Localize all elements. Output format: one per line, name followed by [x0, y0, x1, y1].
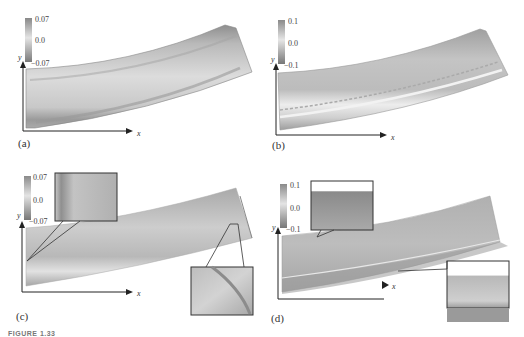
colorbar-min-c: −0.07: [29, 217, 48, 226]
colorbar-max-d: 0.1: [290, 181, 300, 190]
y-arrow-icon: [275, 227, 281, 234]
colorbar-max-c: 0.07: [33, 173, 47, 182]
colorbar-mid-b: 0.0: [288, 39, 298, 48]
colorbar-c: [24, 176, 31, 220]
y-arrow-icon: [273, 63, 279, 70]
beam-plot-d: 0.1 0.0 −0.1 y x (d): [262, 168, 524, 337]
colorbar-min-b: −0.1: [284, 61, 299, 70]
x-arrow-icon: [126, 289, 133, 295]
colorbar-mid-d: 0.0: [290, 204, 300, 213]
colorbar-a: [25, 18, 32, 62]
colorbar-max-a: 0.07: [35, 15, 49, 24]
x-label-d: x: [391, 282, 396, 291]
panel-a: 0.07 0.0 −0.07 y x (a): [0, 0, 262, 168]
x-label-a: x: [136, 129, 141, 138]
y-label-b: y: [270, 55, 275, 64]
panel-b: 0.1 0.0 −0.1 y x (b): [262, 0, 524, 168]
panel-d: 0.1 0.0 −0.1 y x (d): [262, 168, 524, 337]
inset-zoom-d-bottom: [447, 261, 509, 308]
beam-plot-b: 0.1 0.0 −0.1 y x (b): [262, 0, 524, 168]
y-label-d: y: [271, 223, 276, 232]
x-arrow-icon: [380, 132, 387, 138]
inset-zoom-c-top: [55, 173, 117, 221]
x-arrow-icon: [382, 281, 389, 289]
figure-caption: FIGURE 1.33: [8, 330, 56, 337]
y-arrow-icon: [20, 61, 26, 68]
inset-zoom-d-bottom-strip: [447, 308, 509, 322]
panel-label-d: (d): [271, 312, 284, 325]
y-arrow-icon: [19, 221, 25, 228]
panel-label-c: (c): [16, 310, 29, 323]
colorbar-min-a: −0.07: [31, 59, 50, 68]
y-label-c: y: [16, 211, 21, 220]
x-label-c: x: [136, 289, 141, 298]
colorbar-mid-a: 0.0: [35, 36, 45, 45]
beam-plot-c: 0.07 0.0 −0.07 y x (c): [0, 168, 262, 330]
inset-zoom-d-top: [311, 181, 373, 230]
panel-label-a: (a): [18, 137, 31, 150]
colorbar-min-d: −0.1: [286, 225, 301, 234]
colorbar-mid-c: 0.0: [33, 196, 43, 205]
x-label-b: x: [390, 133, 395, 142]
panel-c: 0.07 0.0 −0.07 y x (c): [0, 168, 262, 330]
y-label-a: y: [17, 53, 22, 62]
panel-label-b: (b): [272, 139, 285, 152]
beam-plot-a: 0.07 0.0 −0.07 y x (a): [0, 0, 262, 168]
colorbar-d: [280, 184, 287, 228]
colorbar-b: [278, 20, 285, 64]
x-arrow-icon: [126, 128, 133, 134]
colorbar-max-b: 0.1: [288, 17, 298, 26]
